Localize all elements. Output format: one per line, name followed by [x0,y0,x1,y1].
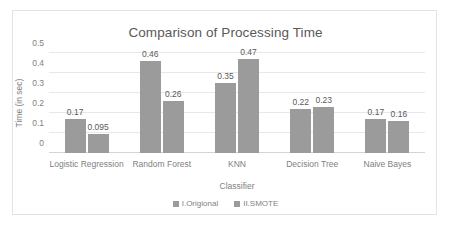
bar[interactable] [365,119,386,153]
legend-label: II.SMOTE [243,199,278,208]
bar-value-label: 0.17 [67,107,84,117]
y-axis-tick-label: 0.3 [32,78,44,88]
bar-column[interactable]: 0.47 [238,53,259,153]
x-axis-tick-label: KNN [228,159,246,169]
bar-column[interactable]: 0.17 [365,53,386,153]
bar-value-label: 0.46 [142,49,159,59]
bar[interactable] [163,101,184,153]
bar-column[interactable]: 0.095 [88,53,109,153]
x-axis-tick-label: Random Forest [132,159,191,169]
bar-value-label: 0.26 [165,89,182,99]
bar-value-label: 0.23 [315,95,332,105]
bar[interactable] [88,134,109,153]
bar[interactable] [313,107,334,153]
y-axis-tick-label: 0 [39,138,44,148]
bar-column[interactable]: 0.23 [313,53,334,153]
chart-legend: I.OrigionalII.SMOTE [13,199,438,208]
bar-value-label: 0.095 [87,122,108,132]
chart-title: Comparison of Processing Time [13,25,438,40]
bar[interactable] [215,83,236,153]
legend-swatch-icon [173,201,179,207]
legend-item[interactable]: I.Origional [173,199,218,208]
x-axis-title: Classifier [49,181,425,191]
bar-group: 0.350.47KNN [199,53,274,153]
chart-container: Comparison of Processing Time Time (in s… [12,10,437,215]
y-axis-tick-label: 0.5 [32,38,44,48]
plot-area: Time (in sec) 00.10.20.30.40.50.170.095L… [49,53,425,153]
x-axis-tick-label: Logistic Regression [50,159,124,169]
y-axis-title: Time (in sec) [14,79,24,128]
x-axis-tick-label: Naive Bayes [364,159,412,169]
bar-value-label: 0.16 [391,109,408,119]
x-axis-tick-label: Decision Tree [286,159,338,169]
bar-column[interactable]: 0.35 [215,53,236,153]
y-axis-tick-label: 0.1 [32,118,44,128]
bar-column[interactable]: 0.17 [65,53,86,153]
bar-value-label: 0.35 [217,71,234,81]
bar-group: 0.170.095Logistic Regression [49,53,124,153]
bar-column[interactable]: 0.46 [140,53,161,153]
bar-group: 0.220.23Decision Tree [275,53,350,153]
bar-group: 0.460.26Random Forest [124,53,199,153]
bar[interactable] [388,121,409,153]
bar[interactable] [65,119,86,153]
legend-label: I.Origional [182,199,218,208]
bar-value-label: 0.47 [240,47,257,57]
y-axis-tick-label: 0.4 [32,58,44,68]
legend-item[interactable]: II.SMOTE [234,199,278,208]
legend-swatch-icon [234,201,240,207]
y-axis-tick-label: 0.2 [32,98,44,108]
bar-value-label: 0.22 [292,97,309,107]
bar-value-label: 0.17 [368,107,385,117]
bar-column[interactable]: 0.22 [290,53,311,153]
bar[interactable] [290,109,311,153]
bar[interactable] [238,59,259,153]
bar-group: 0.170.16Naive Bayes [350,53,425,153]
bar[interactable] [140,61,161,153]
bar-column[interactable]: 0.16 [388,53,409,153]
bar-column[interactable]: 0.26 [163,53,184,153]
